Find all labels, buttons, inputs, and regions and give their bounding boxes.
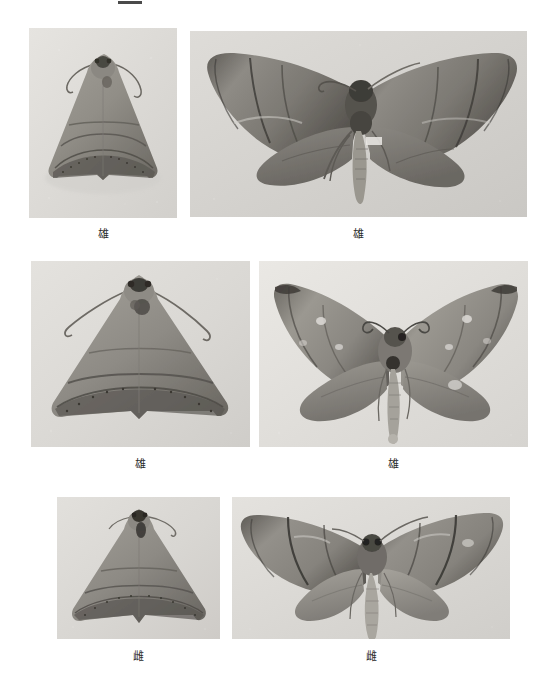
specimen-photo-2: [190, 31, 527, 217]
figure-caption-6: 雌: [232, 650, 510, 664]
figure-caption-3: 雄: [31, 458, 250, 472]
specimen-photo-3: [31, 261, 250, 447]
specimen-photo-5: [57, 497, 220, 639]
specimen-photo-1: [29, 28, 177, 218]
figure-caption-1: 雄: [29, 228, 177, 242]
figure-caption-5: 雌: [57, 650, 220, 664]
specimen-plate: 雄: [0, 0, 556, 685]
figure-caption-4: 雄: [259, 458, 528, 472]
specimen-photo-4: [259, 261, 528, 447]
top-rule-mark: [118, 1, 142, 4]
specimen-photo-6: [232, 497, 510, 639]
figure-caption-2: 雄: [190, 228, 527, 242]
